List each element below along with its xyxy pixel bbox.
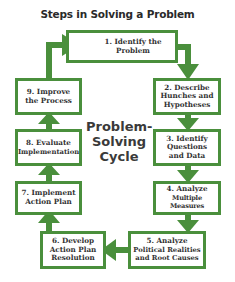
step-7-line-2: Action Plan <box>21 198 75 207</box>
step-5-line-1: 5. Analyze <box>133 237 200 246</box>
step-3-line-3: and Data <box>166 152 208 161</box>
center-label-line-3: Cycle <box>86 149 152 164</box>
step-8-line-1: 8. Evaluate <box>18 139 79 148</box>
step-3-identify-questions: 3. IdentifyQuestionsand Data <box>153 129 221 166</box>
step-6-line-3: Resolution <box>50 254 97 263</box>
step-4-line-2: Multiple Measures <box>156 194 218 211</box>
center-label-line-2: Solving <box>86 134 152 149</box>
step-8-line-2: Implementation <box>18 148 79 157</box>
step-9-improve-process: 9. Improvethe Process <box>15 78 82 115</box>
step-2-describe-hunches: 2. DescribeHunches andHypotheses <box>153 78 221 115</box>
step-9-line-2: the Process <box>25 97 72 106</box>
step-2-line-3: Hypotheses <box>161 101 214 110</box>
step-5-analyze-political-realities: 5. AnalyzePolitical Realitiesand Root Ca… <box>128 231 206 269</box>
step-7-implement-action-plan: 7. ImplementAction Plan <box>15 181 82 215</box>
step-5-line-2: Political Realities <box>133 246 200 255</box>
step-4-analyze-measures: 4. AnalyzeMultiple Measures <box>153 181 221 215</box>
step-6-develop-action-plan: 6. DevelopAction PlanResolution <box>40 231 106 269</box>
step-1-line-2: Problem <box>104 47 161 56</box>
center-label-line-1: Problem- <box>86 119 152 134</box>
step-8-evaluate-implementation: 8. EvaluateImplementation <box>15 129 82 166</box>
cycle-center-label: Problem- Solving Cycle <box>86 119 152 164</box>
step-5-line-3: and Root Causes <box>133 254 200 263</box>
step-1-identify-problem: 1. Identify theProblem <box>66 30 178 63</box>
step-4-line-1: 4. Analyze <box>156 185 218 194</box>
